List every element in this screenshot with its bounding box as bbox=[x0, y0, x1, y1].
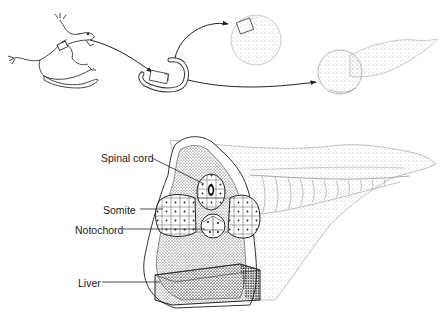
liver-label: Liver bbox=[78, 277, 101, 289]
explant-strip-icon bbox=[141, 60, 187, 90]
notochord-label: Notochord bbox=[75, 224, 123, 236]
cell-aggregate-icon bbox=[231, 15, 281, 65]
somite-label: Somite bbox=[103, 204, 136, 216]
spinal-cord-label: Spinal cord bbox=[101, 152, 154, 164]
salamander-icon bbox=[8, 13, 98, 88]
arrow-icon bbox=[188, 80, 316, 87]
arrow-icon bbox=[175, 23, 228, 58]
tailbud-embryo-icon bbox=[318, 39, 438, 94]
arrow-icon bbox=[90, 40, 152, 72]
embryo-illustration bbox=[0, 0, 442, 314]
embryo-section-icon bbox=[144, 137, 436, 308]
